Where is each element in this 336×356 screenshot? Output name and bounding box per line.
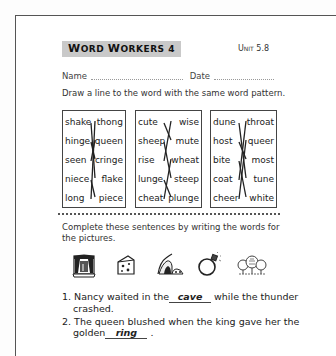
right-word[interactable]: queen — [95, 136, 123, 146]
left-word[interactable]: dune — [213, 117, 236, 127]
ring-picture-icon — [197, 252, 221, 278]
right-word[interactable]: white — [249, 193, 274, 203]
title-part: ORKERS 4 — [120, 44, 175, 54]
right-word[interactable]: piece — [99, 193, 123, 203]
left-word[interactable]: bite — [213, 155, 230, 165]
sentence-2: 2. The queen blushed when the king gave … — [62, 316, 312, 339]
left-word[interactable]: lunge — [138, 174, 163, 184]
left-word[interactable]: host — [213, 136, 232, 146]
answer-blank[interactable]: ring — [105, 327, 147, 339]
right-word[interactable]: queer — [248, 136, 274, 146]
left-word[interactable]: niece — [65, 174, 89, 184]
right-word[interactable]: flake — [101, 174, 123, 184]
title-initial: W — [68, 42, 81, 55]
left-word[interactable]: cheer — [213, 193, 238, 203]
sentence-text: while the thunder — [214, 291, 298, 302]
title-initial: W — [108, 42, 121, 55]
right-word[interactable]: cringe — [95, 155, 123, 165]
sentence-text: The queen blushed when the king gave her… — [74, 316, 299, 327]
left-word[interactable]: sheep — [138, 136, 165, 146]
left-word[interactable]: rise — [138, 155, 154, 165]
left-word[interactable]: seen — [65, 155, 86, 165]
cave-picture-icon — [156, 252, 186, 278]
matching-box-2: cutesheepriselungecheatwisemutewheatstee… — [135, 110, 202, 208]
right-word[interactable]: mute — [175, 136, 199, 146]
left-word[interactable]: coat — [213, 174, 233, 184]
answer-blank[interactable]: cave — [169, 291, 211, 303]
right-word[interactable]: plunge — [168, 193, 199, 203]
matching-box-1: shakehingeseenniecelongthongqueencringef… — [62, 110, 126, 208]
unit-label: Unit 5.8 — [238, 44, 269, 53]
matching-instruction: Draw a line to the word with the same wo… — [62, 88, 285, 98]
name-date-row: Name Date — [62, 71, 274, 81]
worksheet-title: WORD WORKERS 4 — [62, 41, 181, 57]
right-word[interactable]: wheat — [171, 155, 199, 165]
sentence-number: 1. — [62, 291, 71, 302]
sentence-text: golden — [62, 327, 105, 338]
left-word[interactable]: cute — [138, 117, 158, 127]
stage-picture-icon — [72, 252, 96, 278]
date-label: Date — [190, 71, 210, 81]
sentence-1: 1. Nancy waited in thecave while the thu… — [62, 291, 312, 314]
right-word[interactable]: steep — [174, 174, 199, 184]
left-word[interactable]: shake — [65, 117, 91, 127]
sentence-text: crashed. — [62, 303, 114, 314]
matching-box-3: dunehostbitecoatcheerthroatqueermosttune… — [210, 110, 277, 208]
left-word[interactable]: hinge — [65, 136, 90, 146]
sentence-text: Nancy waited in the — [74, 291, 169, 302]
right-word[interactable]: most — [252, 155, 275, 165]
left-word[interactable]: cheat — [138, 193, 163, 203]
right-word[interactable]: tune — [254, 174, 274, 184]
cheese-picture-icon — [114, 252, 138, 278]
match-line[interactable] — [164, 142, 171, 178]
name-label: Name — [62, 71, 87, 81]
sentence-instruction: Complete these sentences by writing the … — [62, 222, 282, 244]
trees-picture-icon — [236, 252, 268, 278]
sentence-number: 2. — [62, 316, 71, 327]
sentence-text: . — [150, 327, 153, 338]
right-word[interactable]: throat — [247, 117, 274, 127]
section-divider — [58, 213, 280, 215]
title-part: ORD — [81, 44, 108, 54]
right-word[interactable]: wise — [179, 117, 199, 127]
left-word[interactable]: long — [65, 193, 84, 203]
date-field[interactable] — [214, 79, 274, 80]
name-field[interactable] — [91, 79, 183, 80]
right-word[interactable]: thong — [97, 117, 123, 127]
